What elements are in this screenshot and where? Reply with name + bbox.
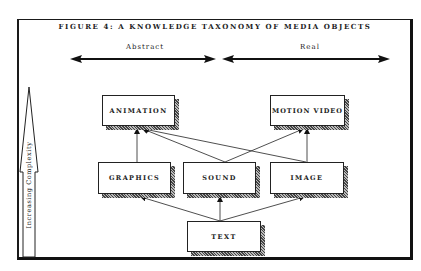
node-sound: SOUND <box>183 162 256 194</box>
node-motion-video: MOTION VIDEO <box>270 95 345 126</box>
node-image: IMAGE <box>270 162 344 194</box>
node-text: TEXT <box>187 221 261 252</box>
abstract-double-arrow-icon <box>70 55 216 63</box>
real-double-arrow-icon <box>222 55 390 63</box>
node-animation: ANIMATION <box>102 95 175 126</box>
node-graphics: GRAPHICS <box>98 162 171 194</box>
complexity-label: Increasing Complexity <box>25 142 33 229</box>
